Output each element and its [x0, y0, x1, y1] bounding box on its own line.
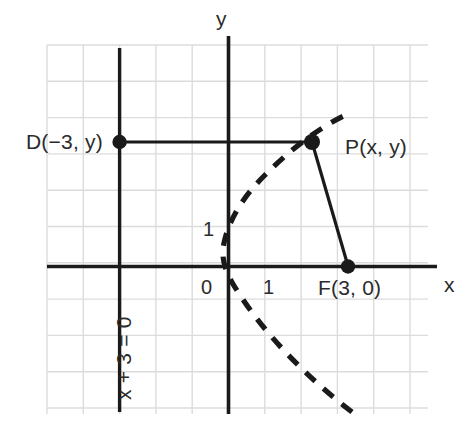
x-axis-label: x: [444, 274, 455, 295]
point-d-label: D(−3, y): [26, 131, 103, 152]
coordinate-plane: [0, 0, 475, 436]
segment-p-to-f: [312, 142, 348, 266]
x-tick-label-1: 1: [263, 277, 274, 297]
point-f-label: F(3, 0): [318, 277, 381, 298]
grid-lines: [47, 45, 428, 414]
directrix-equation-label: x + 3 = 0: [113, 316, 134, 400]
y-axis-label: y: [216, 8, 227, 29]
y-tick-label-1: 1: [203, 219, 214, 239]
parabola-curve: [223, 112, 352, 412]
point-f-marker: [341, 259, 355, 273]
origin-tick-label: 0: [201, 277, 212, 297]
parabola-focus-directrix-figure: y x D(−3, y) P(x, y) F(3, 0) 0 1 1 x + 3…: [0, 0, 475, 436]
point-d-marker: [112, 135, 126, 149]
point-p-label: P(x, y): [345, 136, 407, 157]
point-p-marker: [304, 134, 320, 150]
